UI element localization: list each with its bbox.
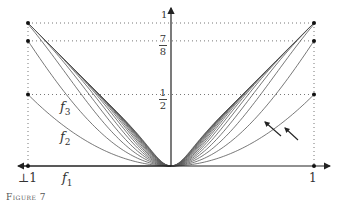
endpoint-dot <box>312 164 316 168</box>
plot-area <box>0 0 341 209</box>
curve-label-f1: f1 <box>62 171 73 188</box>
figure-caption: Figure 7 <box>6 192 46 202</box>
annotation-arrows <box>265 122 298 140</box>
y-tick-7-8: 7 8 <box>159 34 167 57</box>
curve-label-f3-sub: 3 <box>65 107 71 117</box>
curve-label-f3: f3 <box>60 100 71 117</box>
x-tick-1: 1 <box>309 172 317 184</box>
endpoint-dot <box>26 21 30 25</box>
y-tick-7-8-denominator: 8 <box>160 47 166 57</box>
curve-label-f2-sub: 2 <box>65 137 71 147</box>
annotation-arrow-3 <box>285 128 298 140</box>
endpoint-dot <box>312 39 316 43</box>
y-tick-1: 1 <box>161 10 167 20</box>
endpoint-dot <box>26 93 30 97</box>
y-tick-1-2-denominator: 2 <box>160 101 166 111</box>
x-tick-minus-1: ⊥1 <box>18 172 37 184</box>
y-tick-1-2: 1 2 <box>159 88 167 111</box>
figure: 1 7 8 1 2 ⊥1 1 f3 f2 f1 Figure 7 <box>0 0 341 209</box>
curve-label-f1-sub: 1 <box>67 178 73 188</box>
endpoint-dot <box>26 164 30 168</box>
endpoint-dot <box>312 93 316 97</box>
curve-label-f2: f2 <box>60 130 71 147</box>
y-tick-1-2-numerator: 1 <box>160 88 166 98</box>
endpoint-dot <box>26 39 30 43</box>
y-tick-7-8-numerator: 7 <box>160 34 166 44</box>
endpoint-dot <box>312 21 316 25</box>
